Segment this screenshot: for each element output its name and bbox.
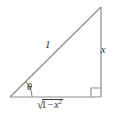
right-triangle-figure: 1 x θ √1−x2: [0, 0, 114, 124]
radicand: 1−x2: [42, 99, 63, 110]
hypotenuse-label: 1: [45, 39, 51, 50]
adjacent-side-label: √1−x2: [37, 99, 63, 111]
radicand-one: 1: [42, 99, 47, 110]
radical-expression: √1−x2: [37, 99, 63, 111]
opposite-side-label: x: [101, 45, 105, 55]
hypotenuse-line: [10, 7, 101, 97]
angle-theta-label: θ: [27, 82, 32, 92]
radicand-exponent: 2: [59, 99, 62, 105]
right-angle-marker-icon: [91, 88, 101, 97]
